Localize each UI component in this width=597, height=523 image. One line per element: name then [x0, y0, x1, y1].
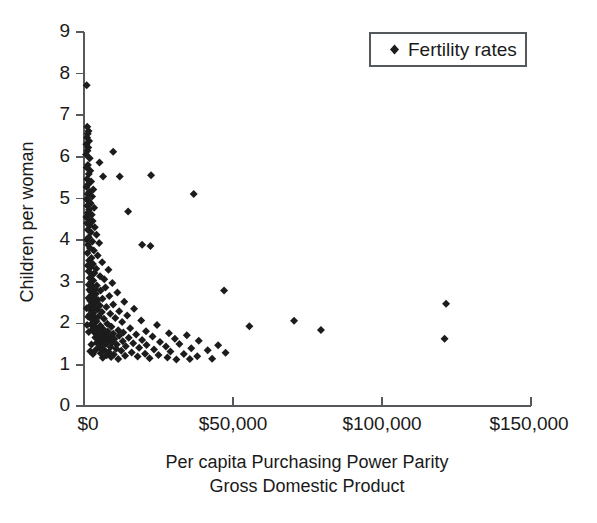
y-tick-label-5: 5: [59, 187, 70, 208]
x-tick-label-50000: $50,000: [199, 413, 268, 434]
y-tick-label-3: 3: [59, 270, 70, 291]
x-tick-label-0: $0: [77, 413, 98, 434]
y-tick-label-9: 9: [59, 20, 70, 41]
legend-label-fertility-rates: Fertility rates: [408, 39, 517, 60]
scatter-plot-svg: 9 8 7 6 5 4 3 2 1 0 $0 $50,000 $100,000 …: [0, 0, 597, 523]
x-tick-label-150000: $150,000: [489, 413, 568, 434]
x-axis-title-line1: Per capita Purchasing Power Parity: [165, 452, 448, 472]
y-tick-label-7: 7: [59, 103, 70, 124]
y-tick-label-2: 2: [59, 311, 70, 332]
y-tick-label-6: 6: [59, 145, 70, 166]
y-tick-label-1: 1: [59, 353, 70, 374]
y-tick-label-0: 0: [59, 394, 70, 415]
fertility-scatter-figure: 9 8 7 6 5 4 3 2 1 0 $0 $50,000 $100,000 …: [0, 0, 597, 523]
x-tick-label-100000: $100,000: [342, 413, 421, 434]
y-tick-label-4: 4: [59, 228, 70, 249]
x-axis-title-line2: Gross Domestic Product: [209, 476, 404, 496]
y-tick-label-8: 8: [59, 62, 70, 83]
y-axis-title: Children per woman: [17, 141, 37, 302]
legend: Fertility rates: [370, 33, 526, 66]
